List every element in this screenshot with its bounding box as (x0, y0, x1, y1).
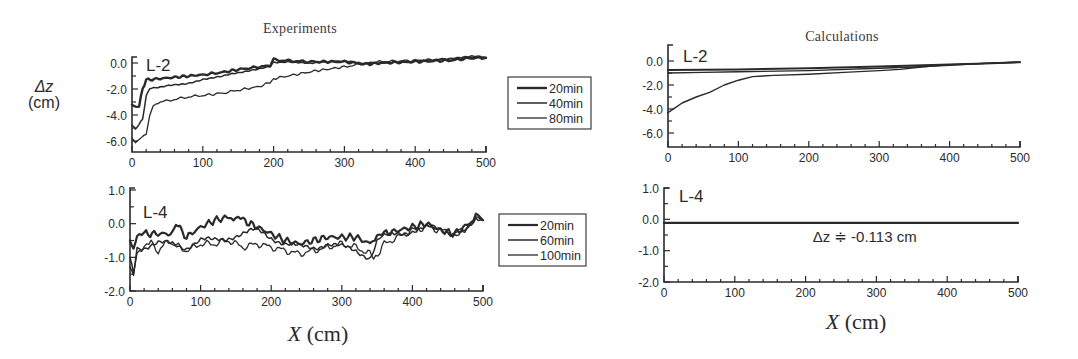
axes-frame (668, 45, 1020, 147)
x-tick-label: 500 (473, 295, 493, 309)
x-tick-label: 100 (191, 295, 211, 309)
x-tick-label: 500 (1008, 286, 1028, 300)
x-tick-label: 300 (866, 286, 886, 300)
series-80min (132, 57, 486, 143)
y-tick-label: 1.0 (642, 182, 659, 196)
panel-experiments-l2: 01002003004005000.0-2.0-4.0-6.0L-2 (106, 56, 496, 170)
panel-label: L-2 (683, 47, 708, 66)
figure: Experiments Calculations Δz (cm) 0100200… (0, 0, 1078, 359)
y-axis-label-var: Δz (34, 78, 54, 95)
y-tick-label: 0.0 (110, 57, 127, 71)
y-tick-label: 0.0 (646, 55, 663, 69)
panel-calculations-l2: 01002003004005000.0-2.0-4.0-6.0L-2 (642, 45, 1030, 165)
x-axis-label-right: X (cm) (825, 309, 886, 334)
panel-calculations-l4: 01002003004005001.00.0-1.0-2.0L-4Δz ≑ -0… (638, 182, 1028, 301)
series-20min (132, 57, 486, 107)
y-tick-label: -2.0 (104, 285, 125, 299)
annotation-mean-dz: Δz ≑ -0.113 cm (813, 228, 917, 245)
y-tick-label: -2.0 (642, 79, 663, 93)
y-tick-label: -4.0 (106, 109, 127, 123)
x-tick-label: 0 (129, 156, 136, 170)
legend-label: 40min (549, 97, 583, 111)
legend-label: 100min (540, 249, 581, 263)
legend-label: 80min (549, 112, 583, 126)
x-tick-label: 400 (405, 156, 425, 170)
panel-label: L-4 (679, 187, 704, 206)
x-tick-label: 200 (796, 286, 816, 300)
panel-label: L-2 (146, 56, 171, 75)
x-tick-label: 200 (261, 295, 281, 309)
y-tick-label: -1.0 (104, 251, 125, 265)
y-tick-label: -6.0 (106, 135, 127, 149)
series-20min (130, 214, 483, 249)
x-tick-label: 200 (264, 156, 284, 170)
y-tick-label: -2.0 (638, 276, 659, 290)
x-tick-label: 100 (193, 156, 213, 170)
y-tick-label: 0.0 (642, 213, 659, 227)
x-tick-label: 0 (665, 151, 672, 165)
x-tick-label: 500 (1010, 151, 1030, 165)
series-40min (132, 56, 486, 129)
y-tick-label: 0.0 (108, 217, 125, 231)
x-tick-label: 0 (127, 295, 134, 309)
legend-label: 20min (549, 82, 583, 96)
panel-label: L-4 (143, 203, 168, 222)
y-tick-label: -4.0 (642, 103, 663, 117)
x-tick-label: 100 (728, 151, 748, 165)
x-tick-label: 400 (402, 295, 422, 309)
x-tick-label: 300 (334, 156, 354, 170)
x-tick-label: 100 (725, 286, 745, 300)
y-tick-label: -1.0 (638, 244, 659, 258)
y-tick-label: -2.0 (106, 83, 127, 97)
x-tick-label: 300 (869, 151, 889, 165)
legend-experiments-l2: 20min40min80min (508, 77, 591, 129)
y-tick-label: 1.0 (108, 184, 125, 198)
column-title-experiments: Experiments (263, 21, 337, 36)
x-axis-label-left: X (cm) (287, 321, 348, 346)
x-tick-label: 0 (661, 286, 668, 300)
x-tick-label: 400 (937, 286, 957, 300)
y-axis-label-unit: (cm) (28, 94, 60, 111)
column-title-calculations: Calculations (805, 29, 879, 44)
x-tick-label: 200 (799, 151, 819, 165)
x-tick-label: 500 (476, 156, 496, 170)
legend-experiments-l4: 20min60min100min (499, 214, 586, 266)
y-tick-label: -6.0 (642, 127, 663, 141)
legend-label: 60min (540, 234, 574, 248)
panel-experiments-l4: 01002003004005001.00.0-1.0-2.0L-4 (104, 184, 493, 310)
x-tick-label: 300 (332, 295, 352, 309)
x-tick-label: 400 (940, 151, 960, 165)
legend-label: 20min (540, 219, 574, 233)
axes-frame (132, 57, 486, 152)
